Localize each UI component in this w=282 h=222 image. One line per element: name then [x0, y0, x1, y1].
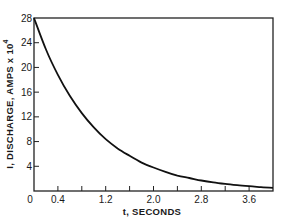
- plot-border: [34, 18, 273, 191]
- plot-frame: [34, 18, 273, 191]
- y-tick-label: 28: [21, 13, 33, 24]
- x-tick-label: 2.8: [194, 194, 208, 205]
- x-axis-label: t, SECONDS: [123, 206, 181, 217]
- y-axis-ticks: 481216202428: [21, 13, 39, 172]
- y-axis-label-text: I, DISCHARGE, AMPS x 10: [4, 43, 15, 168]
- y-tick-label: 8: [26, 136, 32, 147]
- y-axis-label: I, DISCHARGE, AMPS x 104: [2, 39, 15, 169]
- x-tick-label: 2.0: [147, 194, 161, 205]
- x-axis-ticks: 00.41.22.02.83.6: [27, 186, 256, 205]
- discharge-chart: 00.41.22.02.83.6 481216202428 t, SECONDS…: [0, 0, 282, 222]
- y-axis-label-group: I, DISCHARGE, AMPS x 104: [2, 39, 15, 169]
- y-tick-label: 12: [21, 111, 33, 122]
- x-tick-label: 0: [27, 194, 33, 205]
- x-tick-label: 0.4: [51, 194, 65, 205]
- y-tick-label: 4: [26, 161, 32, 172]
- y-tick-label: 20: [21, 62, 33, 73]
- y-tick-label: 24: [21, 37, 33, 48]
- y-tick-label: 16: [21, 87, 33, 98]
- x-tick-label: 3.6: [242, 194, 256, 205]
- x-tick-label: 1.2: [99, 194, 113, 205]
- y-axis-label-exponent: 4: [2, 39, 9, 43]
- discharge-curve: [34, 18, 273, 188]
